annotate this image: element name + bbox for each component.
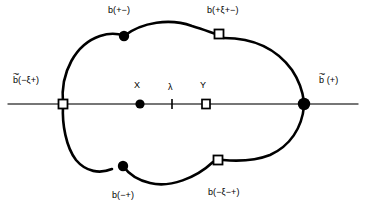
top-left-filled-dot [119,31,129,41]
arc-lower-middle [123,162,213,184]
b-tilde-glyph: ~b [13,76,18,85]
bottom-left-filled-dot [118,161,128,171]
top-right-open-square [215,30,224,39]
label-top-left-node: b(+−) [108,6,130,15]
arc-lower-left [63,106,112,172]
arc-lower-right [223,106,304,161]
axis-point-x-filled-dot [135,99,144,108]
label-top-right-node: b(+ξ+−) [207,6,239,15]
right-axis-filled-dot [298,98,310,110]
label-right-axis-node-suffix: (+) [324,75,338,85]
label-axis-point-y: Y [200,81,206,90]
label-bottom-right-node: b(−ξ−+) [208,188,240,197]
axis-point-y-open-square [202,100,210,109]
label-bottom-left-node: b(−+) [112,191,134,200]
bottom-right-open-square [214,156,223,165]
label-left-axis-node: ~b(−ξ+) [13,76,39,85]
label-right-axis-node: ~b (+) [319,76,338,85]
figure-drawing [0,0,366,216]
tilde-icon: ~ [318,70,325,79]
b-tilde-glyph: ~b [319,76,324,85]
label-left-axis-node-suffix: (−ξ+) [18,75,39,85]
arc-upper-middle [124,22,216,36]
label-axis-point-lambda: λ [168,83,173,92]
arc-upper-left [63,34,124,104]
tilde-icon: ~ [12,70,19,79]
label-axis-point-x: X [134,81,140,90]
figure-container: b(+−) b(+ξ+−) ~b(−ξ+) ~b (+) X λ Y b(−+)… [0,0,366,216]
arc-upper-right [224,38,304,102]
left-axis-open-square [59,100,68,109]
